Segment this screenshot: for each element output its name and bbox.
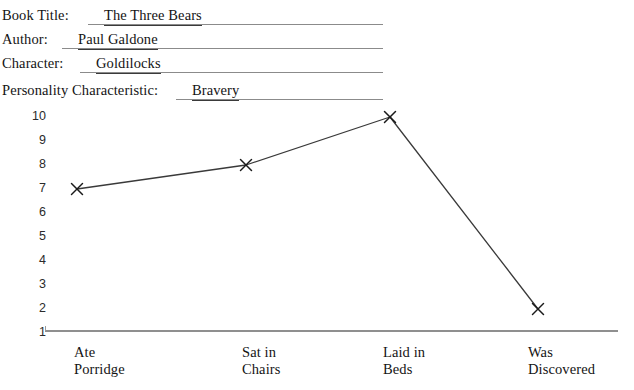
form-row-character: Character: Goldilocks — [0, 54, 634, 78]
personality-characteristic-label: Personality Characteristic: — [2, 82, 158, 99]
x-axis-label-3-line2: Discovered — [528, 361, 595, 377]
book-title-label: Book Title: — [2, 7, 69, 24]
x-axis-label-1: Sat in Chairs — [242, 344, 280, 378]
x-axis-label-0-line1: Ate — [74, 344, 95, 360]
x-axis-label-2-line2: Beds — [383, 361, 412, 377]
line-chart: 10 9 8 7 6 5 4 3 2 1 — [0, 104, 634, 390]
x-axis-label-3-line1: Was — [528, 344, 553, 360]
author-value[interactable]: Paul Galdone — [78, 31, 158, 50]
x-axis-label-2-line1: Laid in — [383, 344, 425, 360]
data-point-marker-2 — [385, 112, 396, 123]
worksheet-page: Book Title: The Three Bears Author: Paul… — [0, 0, 634, 390]
x-axis-label-3: Was Discovered — [528, 344, 595, 378]
x-axis-label-1-line2: Chairs — [242, 361, 280, 377]
x-axis-label-1-line1: Sat in — [242, 344, 276, 360]
personality-characteristic-value[interactable]: Bravery — [192, 82, 239, 101]
x-axis-label-2: Laid in Beds — [383, 344, 425, 378]
x-axis-label-0: Ate Porridge — [74, 344, 125, 378]
author-label: Author: — [2, 31, 48, 48]
book-info-form: Book Title: The Three Bears Author: Paul… — [0, 6, 634, 104]
x-axis-label-0-line2: Porridge — [74, 361, 125, 377]
character-label: Character: — [2, 55, 63, 72]
data-line — [77, 117, 538, 309]
form-row-author: Author: Paul Galdone — [0, 30, 634, 54]
book-title-value[interactable]: The Three Bears — [104, 7, 202, 26]
data-point-marker-3 — [533, 304, 544, 315]
form-row-book-title: Book Title: The Three Bears — [0, 6, 634, 30]
character-value[interactable]: Goldilocks — [96, 55, 161, 74]
form-row-personality-characteristic: Personality Characteristic: Bravery — [0, 78, 634, 104]
